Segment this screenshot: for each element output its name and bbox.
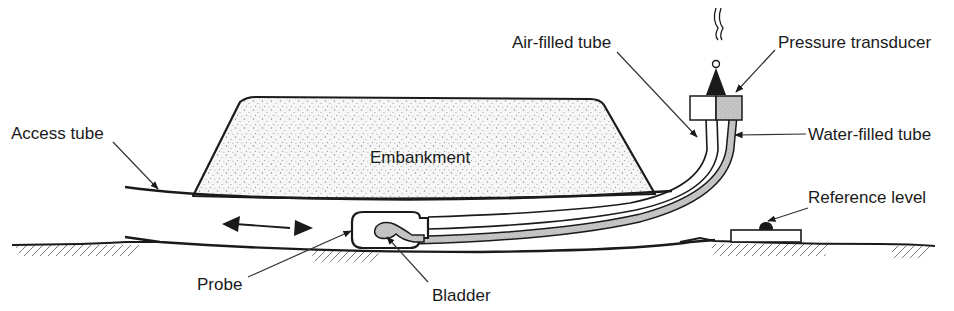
label-pressure-transducer: Pressure transducer: [778, 33, 931, 52]
label-air-filled-tube: Air-filled tube: [512, 33, 611, 52]
movement-arrow-icon: [222, 216, 313, 236]
label-probe: Probe: [197, 275, 242, 294]
label-embankment: Embankment: [370, 148, 470, 167]
label-water-filled-tube: Water-filled tube: [808, 125, 931, 144]
label-bladder: Bladder: [432, 286, 491, 305]
label-reference-level: Reference level: [808, 188, 926, 207]
label-access-tube: Access tube: [11, 124, 104, 143]
pressure-transducer: [690, 8, 742, 120]
reference-level-marker: [731, 222, 801, 242]
ground-line-left: [12, 242, 160, 245]
hydraulic-profile-gauge-diagram: Access tube Embankment Air-filled tube P…: [0, 0, 954, 311]
